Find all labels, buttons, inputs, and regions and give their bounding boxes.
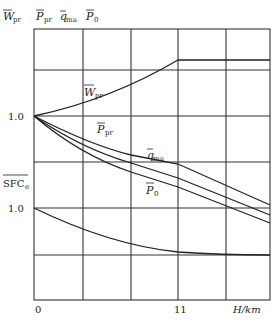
svg-text:ma: ma <box>66 16 77 24</box>
y-tick-1-bottom: 1.0 <box>8 203 24 214</box>
label-q-ma: q ma <box>147 149 164 163</box>
label-p-0: P 0 <box>145 183 158 198</box>
svg-text:P: P <box>35 10 44 23</box>
svg-text:pr: pr <box>13 16 21 24</box>
svg-text:0: 0 <box>94 16 98 24</box>
y-tick-1-top: 1.0 <box>8 111 24 122</box>
svg-text:P: P <box>85 10 94 23</box>
svg-text:0: 0 <box>154 190 158 198</box>
label-p-pr: P pr <box>96 123 113 137</box>
curve-sfc <box>34 208 270 255</box>
curve-w-pr <box>34 60 270 116</box>
grid <box>34 29 270 300</box>
x-axis-label: H/km <box>232 304 261 315</box>
sfc-label: SFC e <box>3 175 29 191</box>
x-tick-11: 11 <box>174 304 187 315</box>
svg-text:pr: pr <box>105 129 113 137</box>
svg-text:P: P <box>96 123 105 136</box>
svg-text:pr: pr <box>44 16 52 24</box>
x-tick-0: 0 <box>35 304 41 315</box>
svg-text:e: e <box>25 183 29 191</box>
svg-text:pr: pr <box>95 92 103 100</box>
curve-q-ma <box>34 116 270 215</box>
svg-text:SFC: SFC <box>3 178 25 189</box>
svg-text:P: P <box>145 184 154 197</box>
svg-text:ma: ma <box>153 155 164 163</box>
top-axis-labels: W pr P pr q ma P 0 <box>3 10 98 24</box>
chart: W pr P pr q ma P 0 1.0 1.0 SFC e 0 11 H/… <box>0 0 279 323</box>
label-w-pr: W pr <box>84 85 103 100</box>
